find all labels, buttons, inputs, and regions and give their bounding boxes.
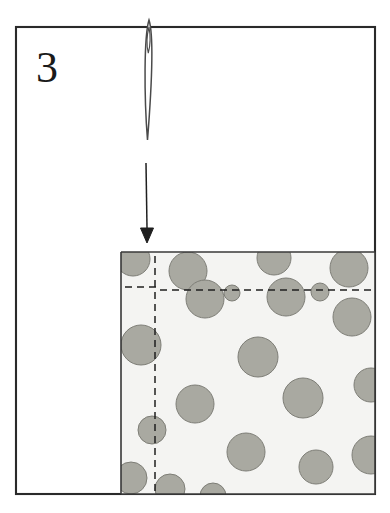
fabric-dot: [333, 298, 371, 336]
fabric-dot: [238, 337, 278, 377]
polka-dot-fabric: [115, 241, 390, 509]
fabric-dot: [283, 378, 323, 418]
fabric-dot: [138, 416, 166, 444]
step-3-diagram: 3: [0, 0, 390, 513]
illustration-canvas: 3: [0, 0, 390, 513]
fabric-dot: [311, 283, 329, 301]
fabric-dot: [299, 450, 333, 484]
step-number: 3: [36, 43, 58, 92]
fabric-dot: [176, 385, 214, 423]
fabric-dot: [186, 280, 224, 318]
fabric-dot: [267, 278, 305, 316]
fabric-dot: [227, 433, 265, 471]
fabric-dot: [330, 249, 368, 287]
